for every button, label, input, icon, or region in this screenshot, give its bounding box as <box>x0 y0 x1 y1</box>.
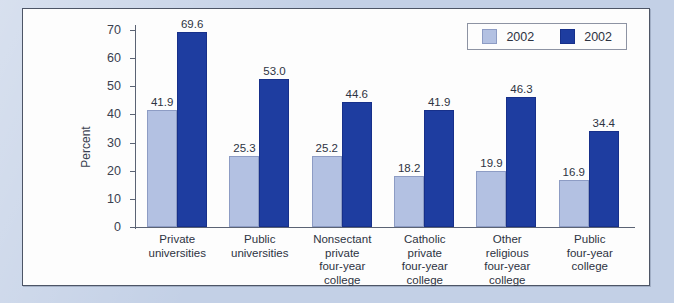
x-axis-line <box>135 227 635 228</box>
legend-color-swatch <box>482 29 497 44</box>
bar-group: 19.946.3 <box>465 31 547 227</box>
category-label-line: college <box>466 274 549 288</box>
y-axis-tick: 0 <box>130 227 136 228</box>
bar-value-label: 25.2 <box>316 142 338 154</box>
bar[interactable]: 18.2 <box>394 176 424 227</box>
bar[interactable]: 41.9 <box>147 110 177 227</box>
x-axis-category-label: Nonsectantprivatefour-yearcollege <box>301 233 384 287</box>
bar-value-label: 19.9 <box>480 157 502 169</box>
bar[interactable]: 16.9 <box>559 180 589 227</box>
bar-group: 41.969.6 <box>136 31 218 227</box>
x-axis-category-label: Catholicprivatefour-yearcollege <box>384 233 467 287</box>
category-label-line: universities <box>219 247 302 261</box>
category-label-line: four-year <box>466 260 549 274</box>
bar[interactable]: 34.4 <box>589 131 619 227</box>
legend-label: 2002 <box>584 30 612 44</box>
legend-label: 2002 <box>506 30 534 44</box>
bar-value-label: 18.2 <box>398 162 420 174</box>
category-label-line: college <box>384 274 467 288</box>
category-label-line: four-year <box>301 260 384 274</box>
category-label-line: Public <box>219 233 302 247</box>
y-axis-tick-label: 70 <box>107 23 121 37</box>
category-label-line: private <box>384 247 467 261</box>
bar-group: 25.353.0 <box>218 31 300 227</box>
bar[interactable]: 19.9 <box>476 171 506 227</box>
bar-value-label: 46.3 <box>510 83 532 95</box>
category-label-line: Public <box>549 233 632 247</box>
chart-legend: 20022002 <box>467 23 627 50</box>
bar-value-label: 34.4 <box>593 117 615 129</box>
legend-item[interactable]: 2002 <box>560 29 612 44</box>
x-axis-category-label: Publicuniversities <box>219 233 302 287</box>
category-label-line: college <box>301 274 384 288</box>
bar-groups: 41.969.625.353.025.244.618.241.919.946.3… <box>136 31 630 227</box>
x-axis-category-label: Publicfour-yearcollege <box>549 233 632 287</box>
y-axis-title: Percent <box>79 126 93 167</box>
legend-item[interactable]: 2002 <box>482 29 534 44</box>
legend-color-swatch <box>560 29 575 44</box>
category-label-line: four-year <box>549 247 632 261</box>
y-axis-tick-label: 60 <box>107 51 121 65</box>
plot-area: 010203040506070 41.969.625.353.025.244.6… <box>135 31 630 228</box>
chart-panel: Percent 010203040506070 41.969.625.353.0… <box>22 8 650 286</box>
bar[interactable]: 44.6 <box>342 102 372 227</box>
bar-value-label: 44.6 <box>346 88 368 100</box>
bar-value-label: 53.0 <box>263 65 285 77</box>
bar-value-label: 16.9 <box>563 166 585 178</box>
category-label-line: Nonsectant <box>301 233 384 247</box>
x-axis-category-label: Otherreligiousfour-yearcollege <box>466 233 549 287</box>
bar[interactable]: 41.9 <box>424 110 454 227</box>
bar-value-label: 41.9 <box>428 96 450 108</box>
y-axis-tick-label: 0 <box>114 220 121 234</box>
bar-value-label: 25.3 <box>233 142 255 154</box>
bar[interactable]: 53.0 <box>259 79 289 227</box>
category-label-line: Catholic <box>384 233 467 247</box>
x-axis-category-labels: PrivateuniversitiesPublicuniversitiesNon… <box>136 233 631 287</box>
category-label-line: Private <box>136 233 219 247</box>
bar-value-label: 69.6 <box>181 18 203 30</box>
category-label-line: four-year <box>384 260 467 274</box>
x-axis-category-label: Privateuniversities <box>136 233 219 287</box>
bar-group: 18.241.9 <box>383 31 465 227</box>
scanned-page-background: Percent 010203040506070 41.969.625.353.0… <box>0 0 674 303</box>
y-axis-tick-label: 50 <box>107 79 121 93</box>
y-axis-tick-label: 30 <box>107 136 121 150</box>
y-axis-tick-label: 10 <box>107 192 121 206</box>
bar[interactable]: 46.3 <box>506 97 536 227</box>
y-axis-tick-label: 20 <box>107 164 121 178</box>
bar-value-label: 41.9 <box>151 96 173 108</box>
bar-group: 16.934.4 <box>548 31 630 227</box>
bar-group: 25.244.6 <box>301 31 383 227</box>
category-label-line: Other <box>466 233 549 247</box>
bar[interactable]: 25.2 <box>312 156 342 227</box>
category-label-line: private <box>301 247 384 261</box>
bar[interactable]: 25.3 <box>229 156 259 227</box>
y-axis-tick-label: 40 <box>107 107 121 121</box>
bar[interactable]: 69.6 <box>177 32 207 227</box>
category-label-line: universities <box>136 247 219 261</box>
category-label-line: religious <box>466 247 549 261</box>
category-label-line: college <box>549 260 632 274</box>
